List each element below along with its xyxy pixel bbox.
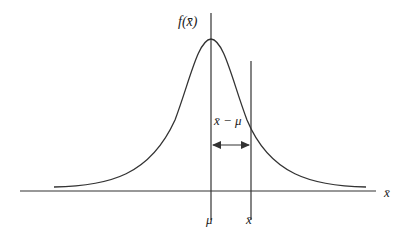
sample-mean-tick-label: x̄: [245, 212, 252, 227]
arrowhead-right-icon: [241, 141, 250, 149]
normal-distribution-diagram: f(x̄) x̄ − μ μ x̄ x̄: [0, 0, 411, 240]
density-curve: [54, 39, 366, 187]
arrowhead-left-icon: [212, 141, 221, 149]
mean-tick-label: μ: [205, 212, 213, 227]
x-axis-label: x̄: [383, 185, 390, 200]
y-axis-label: f(x̄): [178, 14, 198, 30]
deviation-label: x̄ − μ: [213, 113, 242, 128]
